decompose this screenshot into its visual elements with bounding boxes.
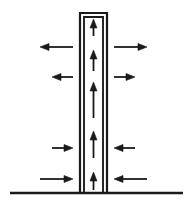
chimney-draft-diagram	[0, 0, 191, 208]
figure-root	[0, 0, 191, 208]
